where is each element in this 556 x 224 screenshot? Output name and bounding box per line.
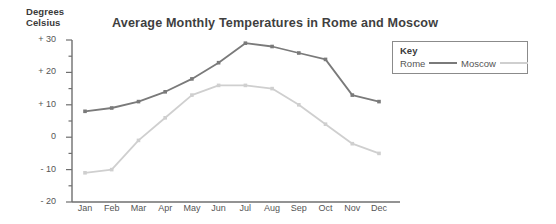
data-series-group [83,41,381,174]
y-axis-tick-labels: + 30+ 20+ 100- 10- 20 [22,0,56,224]
legend-swatch-rome [429,62,457,64]
axis-ticks [66,40,72,202]
data-point-moscow-sep [297,103,301,107]
data-point-rome-dec [377,100,381,104]
data-point-rome-aug [270,45,274,49]
x-axis-tick-label: Dec [362,203,396,213]
plot-area [0,0,556,224]
data-point-rome-jul [244,41,248,45]
legend-label-rome: Rome [400,58,425,69]
legend-entry-moscow: Moscow [461,58,528,69]
legend-entry-rome: Rome [400,58,457,69]
legend-label-moscow: Moscow [461,58,496,69]
y-axis-tick-label: - 10 [22,164,56,174]
legend-box: Key Rome Moscow [392,41,528,74]
data-point-moscow-nov [351,142,355,146]
x-axis-tick-labels: JanFebMarAprMayJunJulAugSepOctNovDec [0,203,556,219]
data-point-rome-feb [110,106,114,110]
data-point-rome-apr [163,90,167,94]
data-point-rome-may [190,77,194,81]
series-line-rome [85,43,379,111]
data-point-moscow-jan [83,171,87,175]
y-axis-tick-label: + 30 [22,34,56,44]
legend-title: Key [400,45,417,56]
data-point-rome-jun [217,61,221,65]
y-axis-tick-label: + 10 [22,99,56,109]
axis-lines [72,40,400,202]
data-point-rome-sep [297,51,301,55]
data-point-moscow-may [190,93,194,97]
series-line-moscow [85,85,379,172]
y-axis-tick-label: 0 [22,131,56,141]
y-axis-tick-label: + 20 [22,66,56,76]
data-point-rome-nov [351,93,355,97]
data-point-rome-oct [324,58,328,62]
data-point-rome-mar [137,100,141,104]
data-point-moscow-aug [270,87,274,91]
data-point-moscow-jun [217,84,221,88]
data-point-moscow-oct [324,122,328,126]
data-point-moscow-apr [163,116,167,120]
data-point-moscow-jul [244,84,248,88]
chart-screenshot: Degrees Celsius Average Monthly Temperat… [0,0,556,224]
data-point-rome-jan [83,110,87,114]
legend-swatch-moscow [500,62,528,64]
data-point-moscow-feb [110,168,114,172]
data-point-moscow-dec [377,152,381,156]
data-point-moscow-mar [137,139,141,143]
